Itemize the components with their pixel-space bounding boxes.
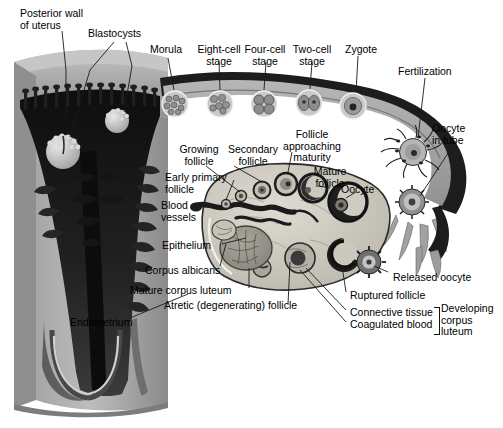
label-two-cell-stage: Two-cell stage [290,44,334,67]
label-endometrium: Endometrium [70,317,132,329]
growing-follicle-structure [254,182,271,199]
label-ruptured-follicle: Ruptured follicle [350,290,425,302]
label-mature-corpus-luteum: Mature corpus luteum [130,285,232,297]
label-oocyte: Oocyte [341,184,374,196]
label-developing-corpus-luteum: Developing corpus luteum [441,303,494,338]
label-connective-tissue: Connective tissue [350,307,433,319]
label-epithelium: Epithelium [162,240,211,252]
label-fertilization: Fertilization [398,66,452,78]
label-growing-follicle: Growing follicle [172,144,226,167]
label-corpus-albicans: Corpus albicans [145,265,220,277]
label-morula: Morula [150,44,182,56]
embryo-stage-four-cell [251,91,277,117]
label-released-oocyte: Released oocyte [393,272,471,284]
label-zygote: Zygote [345,44,377,56]
label-oocyte-in-tube: Oocyte in tube [432,123,465,146]
label-blood-vessels: Blood vessels [161,200,196,223]
anatomical-figure-canvas: Posterior wall of uterus Blastocysts Mor… [0,0,503,429]
uterus-body [14,50,168,418]
label-coagulated-blood: Coagulated blood [350,319,432,331]
developing-corpus-luteum-bracket [434,307,440,335]
label-blastocysts: Blastocysts [88,28,141,40]
embryo-stage-eight-cell [207,91,233,117]
embryo-stage-morula [162,91,188,117]
label-eight-cell-stage: Eight-cell stage [197,44,241,67]
label-posterior-wall-of-uterus: Posterior wall of uterus [20,8,83,31]
label-secondary-follicle: Secondary follicle [222,144,284,167]
label-follicle-approaching-maturity: Follicle approaching maturity [277,129,347,164]
embryo-stage-two-cell [296,90,322,116]
zygote-cell [340,93,366,119]
secondary-follicle-structure [275,173,297,195]
label-early-primary-follicle: Early primary follicle [165,172,227,195]
label-atretic-degenerating-follicle: Atretic (degenerating) follicle [164,300,297,312]
corpus-albicans-structure [212,220,236,240]
label-four-cell-stage: Four-cell stage [243,44,287,67]
